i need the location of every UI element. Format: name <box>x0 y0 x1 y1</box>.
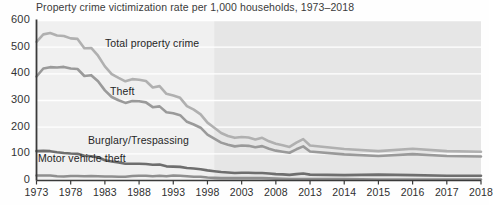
series-label: Theft <box>110 85 134 97</box>
x-tick-label: 2013 <box>293 186 327 198</box>
x-tick-label: 1988 <box>122 186 156 198</box>
y-tick-label: 500 <box>0 40 30 52</box>
series-label: Total property crime <box>105 37 199 49</box>
y-tick-label: 0 <box>0 173 30 185</box>
x-tick-label: 2008 <box>259 186 293 198</box>
y-tick-label: 400 <box>0 66 30 78</box>
x-tick-label: 1993 <box>156 186 190 198</box>
x-tick-label: 1973 <box>20 186 54 198</box>
x-tick-label: 2018 <box>464 186 497 198</box>
series-label: Motor vehicle theft <box>38 152 126 164</box>
y-tick-label: 100 <box>0 146 30 158</box>
x-tick-label: 1998 <box>190 186 224 198</box>
x-tick-label: 1978 <box>54 186 88 198</box>
x-tick-label: 1983 <box>88 186 122 198</box>
y-tick-label: 300 <box>0 93 30 105</box>
x-tick-label: 2016 <box>396 186 430 198</box>
x-tick-label: 2014 <box>327 186 361 198</box>
x-tick-label: 2015 <box>361 186 395 198</box>
x-tick-label: 2017 <box>430 186 464 198</box>
y-tick-label: 200 <box>0 120 30 132</box>
x-tick-label: 2003 <box>225 186 259 198</box>
y-tick-label: 600 <box>0 13 30 25</box>
series-label: Burglary/Trespassing <box>88 134 189 146</box>
